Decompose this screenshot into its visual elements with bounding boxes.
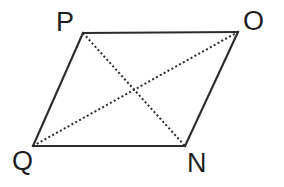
- edge-ON: [185, 32, 238, 146]
- vertex-label-Q: Q: [12, 148, 33, 175]
- vertex-label-P: P: [56, 9, 74, 36]
- vertex-label-O: O: [243, 8, 264, 35]
- diagonal-QO: [33, 32, 238, 146]
- geometry-figure: P O N Q: [0, 0, 284, 187]
- vertex-label-N: N: [187, 150, 207, 177]
- parallelogram-svg: [0, 0, 284, 187]
- edge-PO: [83, 32, 238, 33]
- edge-QP: [33, 33, 83, 146]
